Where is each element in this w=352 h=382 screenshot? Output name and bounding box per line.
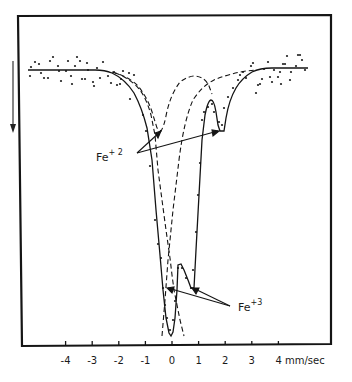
mossbauer-spectrum-chart: -4-3-2-101234 mm/sec Fe+ 2 Fe+3: [0, 0, 352, 382]
data-point: [280, 83, 282, 85]
data-point: [261, 78, 263, 80]
data-point: [284, 63, 286, 65]
data-point: [96, 67, 98, 69]
data-point: [273, 69, 275, 71]
x-axis-tick-labels: -4-3-2-101234 mm/sec: [61, 355, 325, 366]
data-point: [79, 60, 81, 62]
data-point: [149, 165, 151, 167]
data-point: [192, 269, 194, 271]
data-point: [267, 61, 269, 63]
data-point: [47, 77, 49, 79]
fe2-annotation-arrows: [137, 130, 219, 153]
data-point: [259, 83, 261, 85]
data-point: [67, 60, 69, 62]
data-point: [172, 319, 174, 321]
data-point: [40, 72, 42, 74]
data-point: [282, 63, 284, 65]
fe3-label: Fe+3: [238, 298, 262, 314]
data-point: [92, 81, 94, 83]
data-point: [237, 79, 239, 81]
data-point: [76, 56, 78, 58]
data-point: [133, 74, 135, 76]
data-point: [70, 75, 72, 77]
data-point: [84, 78, 86, 80]
data-point: [250, 65, 252, 67]
data-point: [277, 76, 279, 78]
data-point: [201, 119, 203, 121]
data-point: [304, 69, 306, 71]
data-point: [239, 74, 241, 76]
down-arrow-icon: [10, 61, 16, 133]
x-tick-label: -3: [87, 355, 97, 366]
data-point: [99, 77, 101, 79]
x-tick-label: 0: [169, 355, 175, 366]
data-point: [211, 103, 213, 105]
x-tick-label: 2: [222, 355, 228, 366]
data-point: [119, 83, 121, 85]
data-point: [255, 92, 257, 94]
data-point: [71, 83, 73, 85]
data-point: [43, 77, 45, 79]
data-point: [29, 75, 31, 77]
data-point: [297, 54, 299, 56]
data-point: [107, 75, 109, 77]
x-tick-label: 4 mm/sec: [275, 355, 324, 366]
data-point: [232, 87, 234, 89]
data-point: [203, 111, 205, 113]
data-point: [223, 107, 225, 109]
x-tick-label: 3: [249, 355, 255, 366]
data-point: [269, 76, 271, 78]
data-point: [213, 111, 215, 113]
data-point: [301, 59, 303, 61]
data-point: [257, 84, 259, 86]
data-point: [60, 80, 62, 82]
data-point: [34, 61, 36, 63]
data-point: [221, 124, 223, 126]
data-point: [286, 55, 288, 57]
data-point: [93, 85, 95, 87]
data-point: [116, 84, 118, 86]
data-point: [52, 56, 54, 58]
x-tick-label: -4: [61, 355, 71, 366]
x-tick-label: -2: [114, 355, 124, 366]
data-point: [49, 60, 51, 62]
data-point: [102, 61, 104, 63]
data-point: [110, 82, 112, 84]
plot-frame: [18, 15, 331, 346]
data-point: [86, 62, 88, 64]
data-point: [57, 65, 59, 67]
data-point: [129, 98, 131, 100]
data-point: [252, 62, 254, 64]
data-point: [271, 81, 273, 83]
x-tick-label: -1: [140, 355, 150, 366]
data-point: [299, 54, 301, 56]
data-point: [128, 72, 130, 74]
fe2-component-dashed: [112, 72, 212, 131]
data-point: [289, 79, 291, 81]
data-point: [122, 70, 124, 72]
data-point: [38, 63, 40, 65]
data-point: [169, 329, 171, 331]
data-point: [81, 78, 83, 80]
x-tick-label: 1: [195, 355, 201, 366]
data-point: [279, 71, 281, 73]
data-points: [29, 54, 306, 331]
data-point: [290, 71, 292, 73]
data-point: [227, 96, 229, 98]
data-point: [74, 65, 76, 67]
data-point: [295, 65, 297, 67]
data-point: [30, 66, 32, 68]
data-point: [154, 219, 156, 221]
fe2-label: Fe+ 2: [96, 148, 123, 164]
